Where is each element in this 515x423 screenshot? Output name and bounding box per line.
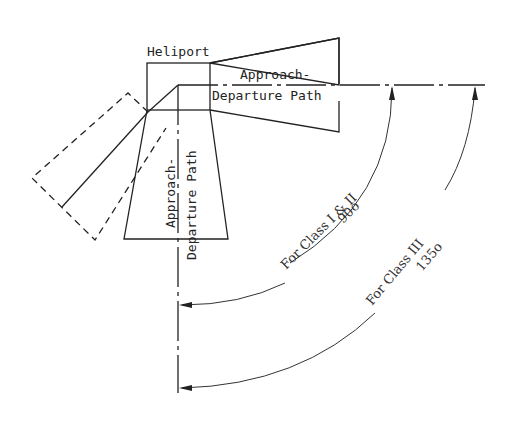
horizontal-path-label-line2: Departure Path bbox=[212, 88, 322, 103]
arrowhead-class-3-bottom bbox=[179, 385, 192, 391]
vertical-path-label-line1: Approach- bbox=[163, 158, 178, 228]
alternate-path-centerline bbox=[62, 112, 148, 207]
arc-class-3-upper bbox=[445, 88, 475, 190]
arc-class-3-lower bbox=[182, 313, 375, 388]
heliport-label: Heliport bbox=[147, 44, 210, 59]
heliport-approach-diagram: Heliport Approach- Departure Path Approa… bbox=[0, 0, 515, 423]
arrowhead-class-1-2-top bbox=[389, 86, 395, 100]
arrowhead-class-3-top bbox=[472, 86, 478, 100]
horizontal-path-label-line1: Approach- bbox=[240, 67, 310, 82]
arrowhead-class-1-2-bottom bbox=[179, 302, 192, 308]
diagonal-to-center bbox=[148, 85, 178, 112]
class-3-label: For Class III bbox=[363, 236, 427, 308]
arc-class-1-2-lower bbox=[182, 283, 285, 305]
vertical-path-label-line2: Departure Path bbox=[184, 150, 199, 260]
